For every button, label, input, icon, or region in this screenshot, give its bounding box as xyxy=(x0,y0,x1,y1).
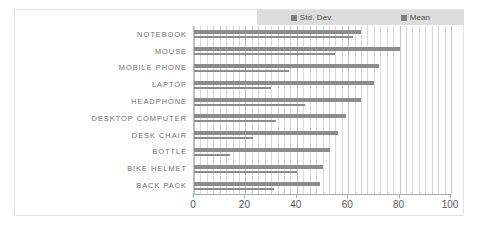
category-label: HEADPHONE xyxy=(15,93,192,110)
x-axis-tick-label: 100 xyxy=(442,199,459,210)
legend-item-mean[interactable]: Mean xyxy=(401,13,430,22)
bar-group xyxy=(194,60,451,77)
bar-group xyxy=(194,76,451,93)
legend-label-std-dev: Std. Dev. xyxy=(300,13,333,22)
x-axis-tick xyxy=(193,194,194,198)
x-axis-line xyxy=(193,194,451,195)
category-label: MOUSE xyxy=(15,43,192,60)
chart-legend: Std. Dev. Mean xyxy=(257,10,464,25)
legend-item-std-dev[interactable]: Std. Dev. xyxy=(291,13,333,22)
bar-std-dev[interactable] xyxy=(194,70,289,72)
bar-mean[interactable] xyxy=(194,64,379,68)
plot-area xyxy=(193,26,451,194)
bar-std-dev[interactable] xyxy=(194,120,276,122)
bar-mean[interactable] xyxy=(194,182,320,186)
bar-std-dev[interactable] xyxy=(194,104,305,106)
x-axis-tick xyxy=(244,194,245,198)
category-label: BOTTLE xyxy=(15,144,192,161)
bar-std-dev[interactable] xyxy=(194,154,230,156)
category-label: NOTEBOOK xyxy=(15,26,192,43)
bar-group xyxy=(194,93,451,110)
x-axis-tick xyxy=(347,194,348,198)
bar-std-dev[interactable] xyxy=(194,87,271,89)
category-label: DESK CHAIR xyxy=(15,127,192,144)
plot-wrapper: NOTEBOOK MOUSE MOBILE PHONE LAPTOP HEADP… xyxy=(15,26,463,216)
bar-group xyxy=(194,144,451,161)
bar-std-dev[interactable] xyxy=(194,53,335,55)
bar-mean[interactable] xyxy=(194,81,374,85)
bar-std-dev[interactable] xyxy=(194,188,274,190)
category-label: BIKE HELMET xyxy=(15,160,192,177)
x-axis-tick-label: 40 xyxy=(290,199,301,210)
square-marker-icon xyxy=(291,15,297,21)
square-marker-icon xyxy=(401,15,407,21)
bar-group xyxy=(194,127,451,144)
bar-mean[interactable] xyxy=(194,165,323,169)
bar-group xyxy=(194,43,451,60)
bar-group xyxy=(194,26,451,43)
x-axis-tick-label: 20 xyxy=(239,199,250,210)
bar-mean[interactable] xyxy=(194,98,361,102)
bar-std-dev[interactable] xyxy=(194,137,253,139)
gridline-major xyxy=(451,26,452,194)
bar-group xyxy=(194,160,451,177)
x-axis-tick-label: 60 xyxy=(342,199,353,210)
x-axis-tick xyxy=(450,194,451,198)
bar-group xyxy=(194,177,451,194)
x-axis-tick xyxy=(399,194,400,198)
bar-group xyxy=(194,110,451,127)
legend-label-mean: Mean xyxy=(410,13,430,22)
bar-mean[interactable] xyxy=(194,30,361,34)
bar-std-dev[interactable] xyxy=(194,36,353,38)
category-label: LAPTOP xyxy=(15,76,192,93)
bar-series-container xyxy=(194,26,451,194)
bar-mean[interactable] xyxy=(194,148,330,152)
category-label: BACK PACK xyxy=(15,177,192,194)
category-axis: NOTEBOOK MOUSE MOBILE PHONE LAPTOP HEADP… xyxy=(15,26,192,194)
bar-mean[interactable] xyxy=(194,47,400,51)
category-label: DESKTOP COMPUTER xyxy=(15,110,192,127)
bar-mean[interactable] xyxy=(194,131,338,135)
x-axis-tick xyxy=(296,194,297,198)
chart-container: Std. Dev. Mean NOTEBOOK MOUSE MOBILE PHO… xyxy=(14,9,464,216)
x-axis-tick-label: 0 xyxy=(190,199,196,210)
bar-std-dev[interactable] xyxy=(194,171,297,173)
x-axis-tick-label: 80 xyxy=(393,199,404,210)
bar-mean[interactable] xyxy=(194,114,346,118)
category-label: MOBILE PHONE xyxy=(15,60,192,77)
